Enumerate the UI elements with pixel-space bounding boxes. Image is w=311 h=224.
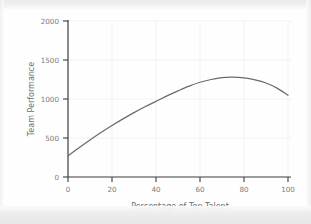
team-performance-curve	[68, 77, 288, 156]
y-tick-label-500: 500	[45, 134, 59, 143]
x-tick-label-80: 80	[239, 185, 249, 194]
x-tick-label-100: 100	[281, 185, 295, 194]
x-axis-ticks	[68, 177, 288, 182]
y-axis-ticks	[63, 21, 68, 177]
y-tick-label-0: 0	[54, 173, 59, 182]
scan-artifact-bottom-band	[0, 206, 311, 224]
x-tick-label-0: 0	[66, 185, 71, 194]
x-tick-label-60: 60	[195, 185, 205, 194]
scanned-page: 2000 1500 1000 500 0 0 20 40 60 80 100 P…	[0, 0, 311, 224]
y-tick-label-1500: 1500	[41, 56, 60, 65]
x-tick-label-20: 20	[107, 185, 117, 194]
x-tick-label-40: 40	[151, 185, 161, 194]
y-axis-title: Team Performance	[27, 62, 36, 137]
y-tick-label-2000: 2000	[41, 17, 60, 26]
grid-lines-horizontal	[68, 21, 292, 138]
line-chart-figure: 2000 1500 1000 500 0 0 20 40 60 80 100 P…	[0, 0, 311, 224]
y-tick-label-1000: 1000	[41, 95, 60, 104]
